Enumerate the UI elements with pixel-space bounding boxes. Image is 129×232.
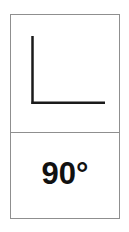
angle-measure-panel: 90° [11, 133, 119, 218]
angle-card: 90° [10, 14, 120, 219]
angle-measure-label: 90° [42, 158, 89, 189]
angle-flashcard-stage: 90° [0, 0, 129, 232]
right-angle-figure [11, 15, 118, 131]
angle-figure-panel [11, 15, 119, 133]
